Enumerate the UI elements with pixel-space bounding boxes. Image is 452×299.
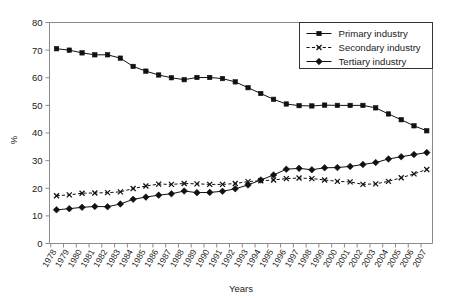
data-point-x [411,171,416,176]
data-point-diamond [334,164,341,171]
y-tick-label: 70 [32,45,43,56]
data-point-diamond [219,188,226,195]
data-point-diamond [92,203,99,210]
y-axis: 01020304050607080 [32,17,50,249]
data-point-square [54,47,58,51]
y-tick-label: 80 [32,17,43,28]
y-tick-label: 0 [37,238,42,249]
data-point-square [348,103,352,107]
data-point-diamond [347,163,354,170]
data-point-square [220,76,224,80]
data-point-square [317,31,321,35]
data-point-diamond [360,161,367,168]
data-point-square [233,80,237,84]
data-point-x [424,167,429,172]
y-axis-title: % [8,135,19,144]
legend-label: Primary industry [339,28,409,39]
data-point-diamond [321,165,328,172]
data-point-square [118,56,122,60]
data-point-square [259,91,263,95]
data-point-x [335,179,340,184]
data-point-square [67,48,71,52]
data-point-square [80,51,84,55]
data-point-square [144,69,148,73]
data-point-square [361,103,365,107]
data-point-diamond [423,149,430,156]
series-line [57,169,427,195]
data-point-square [310,104,314,108]
data-point-diamond [283,166,290,173]
data-point-square [297,103,301,107]
axis-titles: %Years [8,135,253,294]
x-tick-label: 2007 [410,247,428,269]
data-point-diamond [398,153,405,160]
chart-container: 01020304050607080 1978197919801981198219… [0,0,452,299]
data-point-diamond [194,189,201,196]
data-point-diamond [155,192,162,199]
data-point-x [131,186,136,191]
data-point-diamond [296,165,303,172]
legend-label: Secondary industry [339,42,421,53]
data-point-diamond [309,166,316,173]
data-point-diamond [104,203,111,210]
data-point-diamond [385,156,392,163]
data-point-x [399,175,404,180]
y-tick-label: 50 [32,100,43,111]
data-point-diamond [53,206,60,213]
data-point-square [169,76,173,80]
data-point-square [386,112,390,116]
data-point-square [271,97,275,101]
data-point-square [246,85,250,89]
y-tick-label: 20 [32,183,43,194]
data-point-square [322,103,326,107]
data-point-diamond [411,151,418,158]
data-point-square [93,53,97,57]
x-axis-title: Years [229,283,253,294]
data-point-square [208,75,212,79]
series-line [57,153,427,210]
legend-label: Tertiary industry [339,56,407,67]
data-point-square [399,118,403,122]
data-point-square [373,106,377,110]
data-point-square [182,77,186,81]
data-point-square [425,129,429,133]
data-point-square [412,124,416,128]
data-point-diamond [181,188,188,195]
y-tick-label: 40 [32,127,43,138]
data-point-diamond [206,189,213,196]
data-point-diamond [168,190,175,197]
data-point-square [131,64,135,68]
data-point-diamond [130,196,137,203]
data-point-diamond [143,194,150,201]
series-secondary-industry [54,167,429,198]
y-tick-label: 10 [32,210,43,221]
y-tick-label: 30 [32,155,43,166]
data-point-square [195,75,199,79]
data-point-diamond [79,204,86,211]
data-point-square [284,102,288,106]
data-point-diamond [232,186,239,193]
data-point-square [335,103,339,107]
data-point-diamond [372,159,379,166]
data-point-diamond [245,182,252,189]
chart-legend: Primary industrySecondary industryTertia… [300,23,433,69]
data-point-square [105,53,109,57]
data-point-diamond [117,201,124,208]
industry-share-line-chart: 01020304050607080 1978197919801981198219… [0,0,452,299]
data-point-square [156,73,160,77]
data-point-diamond [66,205,73,212]
y-tick-label: 60 [32,72,43,83]
data-series-group [53,47,430,214]
